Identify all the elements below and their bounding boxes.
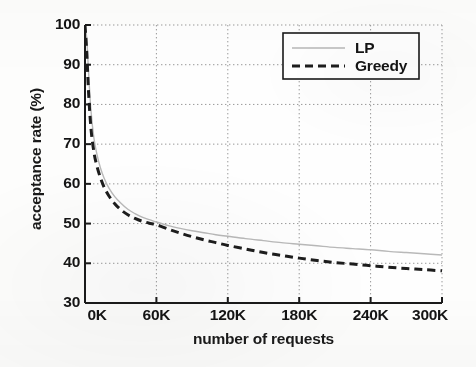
x-tick-label: 120K xyxy=(198,306,258,324)
figure-canvas: 30405060708090100 0K60K120K180K240K300K … xyxy=(0,0,476,367)
x-tick-label: 60K xyxy=(126,306,186,324)
legend-label-greedy: Greedy xyxy=(355,57,407,75)
x-tick-label: 300K xyxy=(400,306,460,324)
x-tick-label: 240K xyxy=(341,306,401,324)
x-tick-label: 180K xyxy=(269,306,329,324)
y-tick-label: 100 xyxy=(22,15,80,33)
y-axis-label: acceptance rate (%) xyxy=(27,49,45,269)
legend-label-lp: LP xyxy=(355,39,374,57)
x-axis-label: number of requests xyxy=(85,330,442,348)
x-tick-label: 0K xyxy=(67,306,127,324)
